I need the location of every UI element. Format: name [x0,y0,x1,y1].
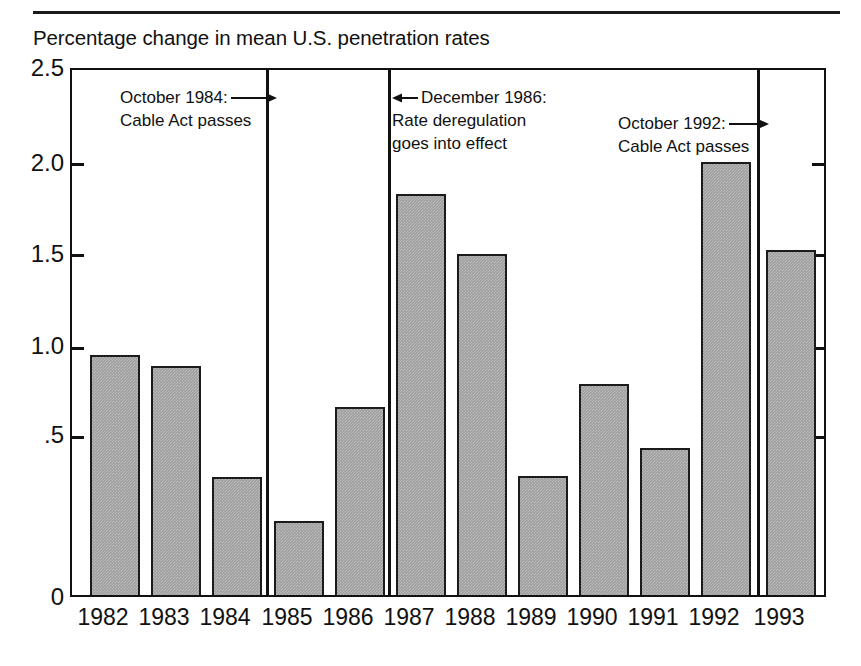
annotation-october-1984-line2: Cable Act passes [120,109,277,132]
y-tick-1-5 [71,254,84,257]
y-tick-label-2-0: 2.0 [8,149,64,177]
arrow-right-icon [729,118,769,130]
chart-title: Percentage change in mean U.S. penetrati… [33,26,490,50]
bar-1986 [335,407,385,595]
divider-october-1984 [266,68,269,597]
annotation-december-1986-line1: December 1986: [421,86,547,109]
bar-1983 [151,366,201,595]
plot-area: October 1984: Cable Act passes December … [70,68,826,597]
bar-1982 [90,355,140,595]
annotation-october-1992-line1-row: October 1992: [618,112,769,135]
bar-1991 [640,448,690,595]
y-tick-label-2-5: 2.5 [8,54,64,82]
y-tick-label-1-5: 1.5 [8,240,64,268]
bar-1988 [457,254,507,595]
bar-1993 [766,250,816,595]
bar-1985 [274,521,324,595]
y-tick-label-0: 0 [8,583,64,611]
annotation-october-1992: October 1992: Cable Act passes [618,112,769,158]
annotation-october-1992-line2: Cable Act passes [618,135,769,158]
bar-1992 [701,162,751,595]
annotation-october-1984-line1: October 1984: [120,86,228,109]
annotation-october-1984: October 1984: Cable Act passes [120,86,277,132]
arrow-right-icon [231,92,277,104]
y-tick-0-5 [71,436,84,439]
divider-december-1986 [388,68,391,597]
figure-container: Percentage change in mean U.S. penetrati… [0,0,861,666]
bar-1990 [579,384,629,595]
annotation-december-1986-line3: goes into effect [392,132,547,155]
bar-1984 [212,477,262,595]
bar-1989 [518,476,568,595]
annotation-december-1986-line1-row: December 1986: [392,86,547,109]
header-rule [33,11,840,14]
x-tick-label-1993: 1993 [739,604,819,631]
annotation-december-1986: December 1986: Rate deregulation goes in… [392,86,547,155]
y-tick-2-0 [71,163,84,166]
annotation-december-1986-line2: Rate deregulation [392,109,547,132]
arrow-left-icon [392,92,418,104]
annotation-october-1984-line1-row: October 1984: [120,86,277,109]
y-tick-1-0 [71,347,84,350]
annotation-october-1992-line1: October 1992: [618,112,726,135]
y-tick-right-2-0 [812,163,825,166]
y-tick-label-0-5: .5 [8,421,64,449]
y-tick-label-1-0: 1.0 [8,332,64,360]
bar-1987 [396,194,446,595]
